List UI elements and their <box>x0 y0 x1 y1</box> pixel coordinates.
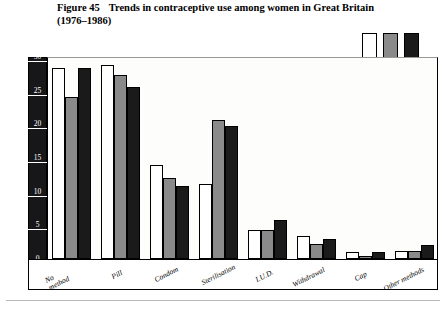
figure-number: Figure 45 <box>57 2 100 13</box>
y-axis-tick-10: 10 <box>28 187 47 196</box>
bar-group <box>150 58 189 259</box>
y-axis-tickline-10 <box>28 196 47 197</box>
bottom-divider <box>6 300 440 301</box>
x-axis-label: Cap <box>353 270 368 283</box>
bar <box>372 252 385 259</box>
y-axis-tickline-30 <box>28 61 47 62</box>
y-axis-tickline-20 <box>28 128 47 129</box>
bar <box>212 120 225 259</box>
figure-title-text: Trends in contraceptive use among women … <box>57 2 374 26</box>
chart-area: • Percentage of women using method of co… <box>6 57 440 293</box>
figure-title: Figure 45Trends in contraceptive use amo… <box>57 2 397 27</box>
y-axis-tick-30: 30 <box>28 52 47 61</box>
bar <box>310 244 323 259</box>
legend-swatch-1976 <box>362 33 377 59</box>
bar <box>274 220 287 259</box>
bar <box>127 87 140 259</box>
bar <box>199 184 212 259</box>
y-axis-tick-25: 25 <box>28 86 47 95</box>
bar <box>225 126 238 259</box>
x-axis-label: No method <box>44 268 71 290</box>
y-axis-tickline-25 <box>28 95 47 96</box>
legend-swatch-1983 <box>383 33 398 59</box>
x-axis-label-band: No methodPillCondomSterilisationI.U.D.Wi… <box>28 259 438 290</box>
legend-swatches <box>362 33 419 59</box>
bar-group <box>297 58 336 259</box>
bar <box>176 186 189 259</box>
bar <box>78 68 91 259</box>
bar <box>408 251 421 259</box>
y-axis-tickline-15 <box>28 162 47 163</box>
x-axis-label: Sterilisation <box>200 263 236 287</box>
x-axis-label: I.U.D. <box>254 268 275 284</box>
bar-group <box>346 58 385 259</box>
bar-group <box>199 58 238 259</box>
bar-group <box>52 58 91 259</box>
bar <box>52 68 65 259</box>
bar <box>163 178 176 259</box>
bar <box>297 236 310 259</box>
bar-group <box>101 58 140 259</box>
bar <box>346 252 359 259</box>
bar <box>395 251 408 259</box>
y-axis-tick-20: 20 <box>28 119 47 128</box>
bar <box>323 239 336 259</box>
plot-area <box>47 57 438 259</box>
y-axis-tickline-5 <box>28 229 47 230</box>
bar-group <box>395 58 434 259</box>
x-axis-label: Condom <box>153 265 179 284</box>
bar <box>65 97 78 259</box>
bar <box>261 230 274 259</box>
x-axis-label: Withdrawal <box>291 266 326 289</box>
x-axis-label: Pill <box>110 269 123 281</box>
bar-groups <box>48 58 437 259</box>
bar <box>248 230 261 259</box>
bar <box>421 245 434 259</box>
bar-group <box>248 58 287 259</box>
bar <box>101 65 114 259</box>
bar <box>150 165 163 259</box>
bar <box>114 75 127 259</box>
x-axis-label: Other methods <box>382 266 425 290</box>
legend-swatch-1986 <box>404 33 419 59</box>
y-axis-tick-15: 15 <box>28 153 47 162</box>
y-axis-tick-5: 5 <box>28 220 47 229</box>
